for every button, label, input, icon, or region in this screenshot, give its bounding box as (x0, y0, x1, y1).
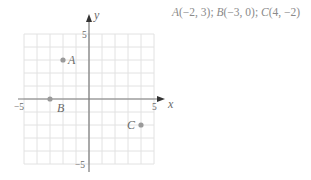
point-c-label: C (127, 118, 136, 132)
caption-c-coords: (4, −2) (269, 6, 300, 18)
tick-labels: xy−555−5ABC (14, 8, 174, 170)
point-b-label: B (57, 101, 65, 115)
caption-b-label: B (217, 6, 224, 18)
y-axis-label: y (93, 8, 100, 22)
x-tick-min: −5 (14, 102, 24, 112)
point-coordinates-caption: A(−2, 3); B(−3, 0); C(4, −2) (172, 6, 300, 18)
y-axis-arrow-icon (86, 14, 92, 22)
x-axis-arrow-icon (157, 96, 165, 102)
point-a-label: A (67, 53, 76, 67)
x-axis-label: x (167, 97, 174, 111)
caption-c-label: C (261, 6, 269, 18)
point-c-dot (138, 122, 143, 127)
caption-a-coords: (−2, 3); (179, 6, 216, 18)
caption-b-coords: (−3, 0); (224, 6, 261, 18)
x-tick-max: 5 (152, 102, 157, 112)
caption-a-label: A (172, 6, 179, 18)
coordinate-plane: xy−555−5ABC (0, 0, 311, 180)
point-a-dot (60, 57, 65, 62)
y-tick-min: −5 (75, 160, 85, 170)
axes (18, 14, 165, 172)
y-tick-max: 5 (82, 30, 87, 40)
point-b-dot (47, 96, 52, 101)
